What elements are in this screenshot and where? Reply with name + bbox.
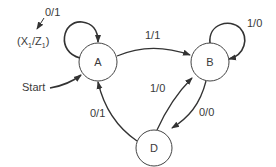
label-a-a: 0/1 [45, 6, 60, 18]
state-diagram: A B D 0/1 (X1/Z1) Start 1/1 1/0 0/0 1/0 … [0, 0, 276, 167]
label-b-b: 1/0 [247, 17, 262, 29]
state-d: D [136, 130, 172, 166]
svg-text:D: D [150, 142, 158, 154]
svg-text:A: A [94, 56, 102, 68]
start-label: Start [22, 81, 45, 93]
label-a-b: 1/1 [145, 29, 160, 41]
state-b: B [191, 43, 229, 81]
transition-b-d [172, 81, 206, 128]
legend-pointer [37, 18, 44, 29]
label-d-a: 0/1 [90, 107, 105, 119]
label-b-d: 0/0 [199, 106, 214, 118]
svg-text:B: B [206, 56, 213, 68]
io-legend: (X1/Z1) [17, 35, 49, 49]
state-a: A [79, 43, 117, 81]
transition-a-b [117, 48, 190, 56]
label-d-b: 1/0 [150, 82, 165, 94]
start-arrow [50, 75, 81, 88]
